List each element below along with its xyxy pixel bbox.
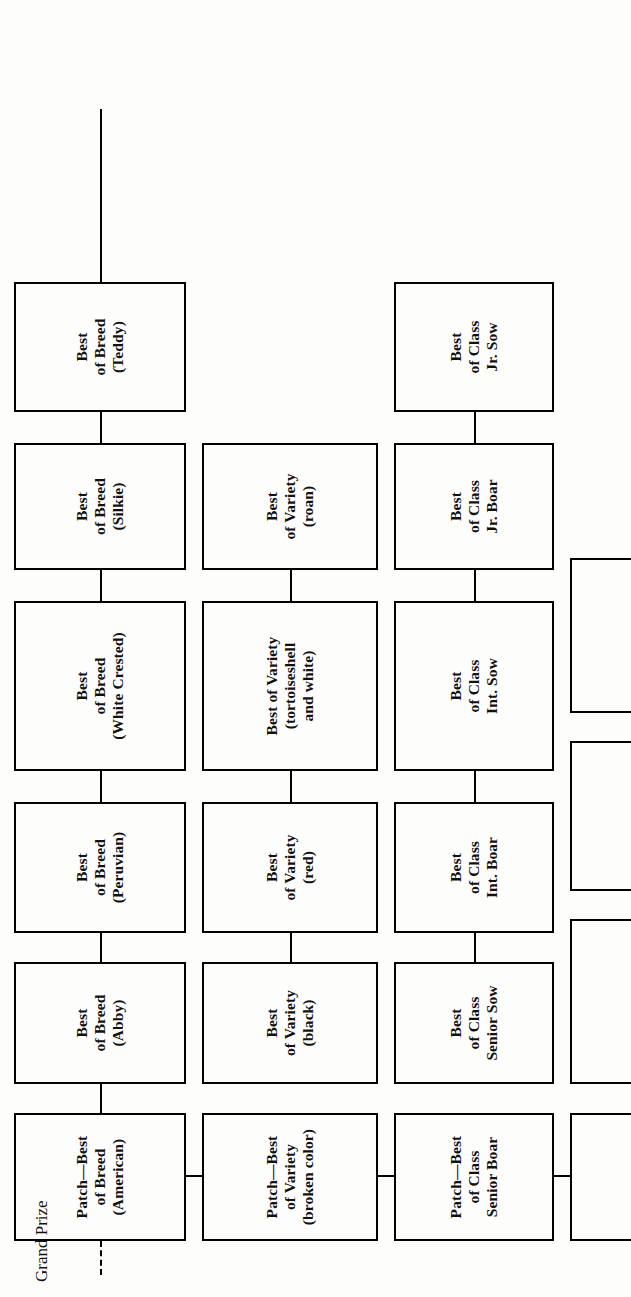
node-label: Patch—Best of Variety (broken color) — [263, 1129, 317, 1225]
node-label: Patch—Best of Class Senior Boar — [447, 1136, 501, 1219]
connector-breed-to-variety — [186, 1175, 202, 1177]
node-variety-patch[interactable]: Patch—Best of Variety (broken color) — [202, 1113, 378, 1241]
node-variety-red[interactable]: Best of Variety (red) — [202, 802, 378, 933]
diagram-canvas: Patch—Best of Breed (American) Best of B… — [0, 0, 631, 1297]
grand-prize-caption: Grand Prize — [32, 1200, 52, 1282]
node-class-patch[interactable]: Patch—Best of Class Senior Boar — [394, 1113, 554, 1241]
node-entry-2[interactable]: senior boar #2 — [570, 919, 631, 1084]
node-label: Best of Variety (black) — [263, 990, 317, 1056]
grand-prize-tick — [100, 1241, 102, 1275]
node-breed-teddy[interactable]: Best of Breed (Teddy) — [14, 282, 186, 412]
node-class-jr-sow[interactable]: Best of Class Jr. Sow — [394, 282, 554, 412]
node-label: Best of Breed (White Crested) — [73, 632, 127, 740]
node-class-jr-boar[interactable]: Best of Class Jr. Boar — [394, 443, 554, 570]
diagram-stage: Patch—Best of Breed (American) Best of B… — [0, 0, 631, 1297]
node-label: Best of Class Senior Sow — [447, 985, 501, 1060]
node-label: Patch—Best of Breed (American) — [73, 1136, 127, 1219]
node-breed-white-crested[interactable]: Best of Breed (White Crested) — [14, 601, 186, 771]
node-class-senior-sow[interactable]: Best of Class Senior Sow — [394, 962, 554, 1084]
node-entry-patch[interactable]: Patch— senior boar — [570, 1113, 631, 1241]
node-breed-abby[interactable]: Best of Breed (Abby) — [14, 962, 186, 1084]
node-label: Best of Class Int. Boar — [447, 837, 501, 898]
node-label: Best of Variety (red) — [263, 835, 317, 901]
node-label: Best of Breed (Peruvian) — [73, 832, 127, 904]
node-label: Best of Breed (Teddy) — [73, 319, 127, 376]
node-class-int-boar[interactable]: Best of Class Int. Boar — [394, 802, 554, 933]
node-entry-4[interactable]: senior boar #4 — [570, 558, 631, 713]
node-label: Best of Variety (tortoiseshell and white… — [263, 637, 317, 736]
node-variety-roan[interactable]: Best of Variety (roan) — [202, 443, 378, 570]
node-label: Best of Variety (roan) — [263, 474, 317, 540]
node-class-int-sow[interactable]: Best of Class Int. Sow — [394, 601, 554, 771]
connector-variety-to-class — [378, 1175, 394, 1177]
node-entry-3[interactable]: senior boar #3 — [570, 741, 631, 891]
node-variety-black[interactable]: Best of Variety (black) — [202, 962, 378, 1084]
node-label: Best of Class Jr. Sow — [447, 321, 501, 374]
node-variety-tortoiseshell[interactable]: Best of Variety (tortoiseshell and white… — [202, 601, 378, 771]
node-label: Best of Breed (Silkie) — [73, 478, 127, 535]
connector-class-to-entries — [554, 1175, 570, 1177]
node-label: Best of Class Jr. Boar — [447, 479, 501, 533]
node-breed-peruvian[interactable]: Best of Breed (Peruvian) — [14, 802, 186, 933]
node-label: Best of Breed (Abby) — [73, 995, 127, 1052]
node-label: Best of Class Int. Sow — [447, 658, 501, 714]
node-breed-silkie[interactable]: Best of Breed (Silkie) — [14, 443, 186, 570]
